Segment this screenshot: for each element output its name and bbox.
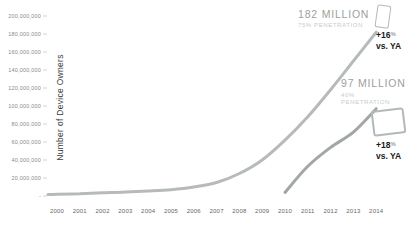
tablet-delta-unit: %: [390, 141, 395, 147]
x-tick-label: 2002: [91, 208, 115, 214]
x-tick-label: 2006: [182, 208, 206, 214]
x-tick-label: 2013: [341, 208, 365, 214]
smartphone-total-label: 182 MILLION: [298, 8, 369, 20]
tablet-penetration-value: 40%: [341, 92, 406, 98]
tablet-delta-value: +18: [376, 140, 390, 150]
tablet-delta: +18% vs. YA: [376, 139, 401, 161]
y-tick-label: 200,000,000: [0, 13, 41, 20]
tablet-icon: [371, 107, 407, 137]
x-tick-label: 2000: [45, 208, 69, 214]
x-tick-label: 2014: [364, 208, 388, 214]
y-tick-label: 140,000,000: [0, 67, 41, 74]
x-tick-label: 2001: [68, 208, 92, 214]
tablet-delta-vs: vs. YA: [376, 151, 401, 162]
x-tick-label: 2012: [319, 208, 343, 214]
smartphone-owners-line: [48, 32, 376, 194]
x-tick-label: 2009: [250, 208, 274, 214]
x-tick-label: 2005: [159, 208, 183, 214]
smartphone-delta-value: +16: [376, 30, 390, 40]
x-tick-label: 2011: [296, 208, 320, 214]
y-tick-label: 80,000,000: [0, 121, 41, 128]
y-axis-title: Number of Device Owners: [55, 37, 68, 178]
smartphone-delta: +16% vs. YA: [376, 29, 401, 51]
smartphone-annotation: 182 MILLION 75% PENETRATION: [298, 8, 369, 28]
tablet-annotation: 97 MILLION 40% PENETRATION: [341, 77, 406, 105]
x-tick-label: 2010: [273, 208, 297, 214]
smartphone-delta-unit: %: [390, 31, 395, 37]
y-tick-label: 120,000,000: [0, 85, 41, 92]
tablet-owners-line: [285, 109, 376, 193]
x-tick-label: 2007: [205, 208, 229, 214]
y-tick-label: 20,000,000: [0, 175, 41, 182]
x-tick-label: 2003: [113, 208, 137, 214]
y-tick-label: 40,000,000: [0, 157, 41, 164]
x-tick-label: 2004: [136, 208, 160, 214]
y-tick-label: 180,000,000: [0, 31, 41, 38]
tablet-total-label: 97 MILLION: [341, 77, 406, 89]
x-tick-label: 2008: [227, 208, 251, 214]
device-owners-chart: Number of Device Owners 200,000,000180,0…: [0, 0, 418, 225]
y-tick-label: 160,000,000: [0, 49, 41, 56]
tablet-penetration-word: PENETRATION: [341, 99, 406, 105]
y-tick-label: -: [0, 193, 41, 200]
smartphone-penetration-label: 75% PENETRATION: [298, 22, 369, 28]
smartphone-delta-vs: vs. YA: [376, 41, 401, 52]
y-tick-label: 100,000,000: [0, 103, 41, 110]
y-tick-label: 60,000,000: [0, 139, 41, 146]
